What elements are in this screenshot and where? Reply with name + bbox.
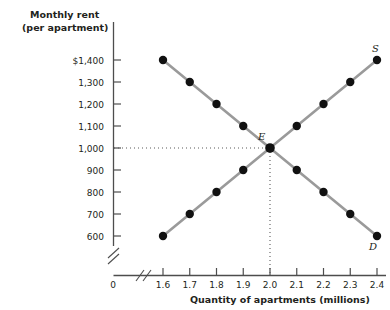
y-axis-break-mark [108,248,119,264]
x-tick-label-2-1: 2.1 [290,280,304,290]
x-tick-label-1-6: 1.6 [156,280,171,290]
equilibrium-point [265,143,275,153]
y-tick-label-1000: 1,000 [78,144,104,154]
origin-label: 0 [110,280,116,290]
y-tick-label-800: 800 [87,188,104,198]
x-tick-label-2-4: 2.4 [370,280,385,290]
y-tick-label-900: 900 [87,166,104,176]
x-tick-label-1-8: 1.8 [209,280,224,290]
x-tick-label-2-3: 2.3 [343,280,357,290]
y-axis-title-line1: Monthly rent [30,9,100,20]
x-tick-label-2-2: 2.2 [316,280,330,290]
x-tick-label-1-9: 1.9 [236,280,251,290]
y-tick-label-1300: 1,300 [78,78,104,88]
x-tick-label-2-0: 2.0 [263,280,278,290]
y-tick-label-700: 700 [87,210,104,220]
y-tick-label-600: 600 [87,232,104,242]
x-tick-label-1-7: 1.7 [183,280,197,290]
x-axis-title: Quantity of apartments (millions) [190,294,370,305]
chart-container: Monthly rent (per apartment) $1,400 [0,0,390,310]
demand-curve-label: D [368,241,377,252]
y-tick-label-1400: $1,400 [73,56,105,66]
supply-curve-label: S [372,43,379,54]
equilibrium-point-label: E [257,131,266,142]
supply-demand-chart: Monthly rent (per apartment) $1,400 [0,0,390,310]
x-axis-ticks [163,268,377,276]
y-tick-label-1100: 1,100 [78,122,104,132]
y-tick-label-1200: 1,200 [78,100,104,110]
y-axis-title-line2: (per apartment) [22,22,108,33]
